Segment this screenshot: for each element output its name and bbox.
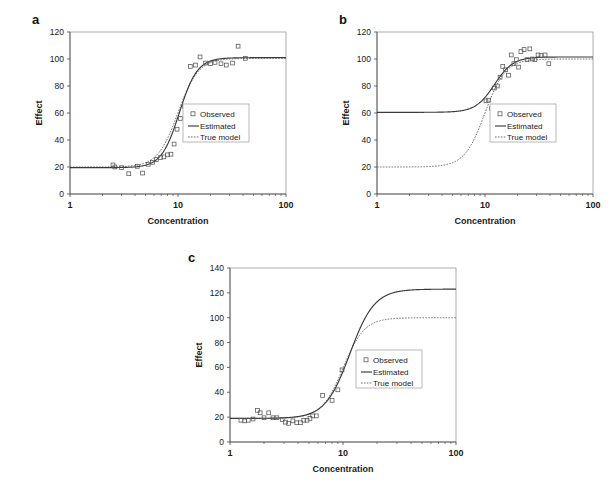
data-point	[236, 44, 240, 48]
data-point	[224, 63, 228, 67]
data-point	[188, 65, 192, 69]
data-point	[321, 393, 325, 397]
panel-letter-c: c	[188, 250, 195, 265]
legend: ObservedEstimatedTrue model	[356, 350, 422, 388]
x-tick-label: 100	[278, 200, 293, 210]
data-point	[251, 417, 255, 421]
y-tick-label: 120	[210, 288, 224, 298]
x-tick-label: 10	[480, 200, 490, 210]
data-point	[336, 388, 340, 392]
chart-a: 020406080100120110100ConcentrationEffect…	[18, 8, 308, 240]
data-point	[517, 65, 521, 69]
true-model-curve	[70, 58, 286, 167]
legend-label-true-model: True model	[373, 379, 413, 388]
legend: ObservedEstimatedTrue model	[490, 104, 556, 142]
figure-root: a 020406080100120110100ConcentrationEffe…	[0, 0, 614, 483]
data-point	[194, 63, 198, 67]
legend-label-estimated: Estimated	[373, 368, 409, 377]
panel-letter-b: b	[339, 12, 347, 27]
panel-letter-a: a	[32, 12, 39, 27]
y-tick-label: 100	[357, 54, 371, 64]
y-tick-label: 0	[219, 437, 224, 447]
data-point	[127, 172, 131, 176]
estimated-curve	[377, 57, 593, 112]
y-axis-title: Effect	[194, 342, 204, 367]
legend-label-observed: Observed	[373, 356, 408, 365]
y-tick-label: 20	[215, 412, 225, 422]
y-tick-label: 140	[210, 263, 224, 273]
data-point	[172, 142, 176, 146]
data-point	[258, 411, 262, 415]
y-tick-label: 40	[55, 135, 65, 145]
legend-label-observed: Observed	[200, 110, 235, 119]
data-point	[175, 127, 179, 131]
x-tick-label: 100	[585, 200, 600, 210]
data-point	[547, 62, 551, 66]
legend-label-estimated: Estimated	[507, 122, 543, 131]
true-model-curve	[377, 59, 593, 167]
y-tick-label: 80	[55, 81, 65, 91]
observed-points	[239, 368, 344, 425]
panel-c: c 020406080100120140110100ConcentrationE…	[168, 248, 478, 480]
data-group	[70, 44, 286, 175]
x-tick-label: 1	[374, 200, 379, 210]
legend-label-observed: Observed	[507, 110, 542, 119]
data-point	[141, 171, 145, 175]
legend-label-true-model: True model	[507, 133, 547, 142]
x-axis-title: Concentration	[312, 464, 373, 474]
data-point	[219, 62, 223, 66]
x-axis-title: Concentration	[454, 216, 515, 226]
y-axis-title: Effect	[34, 100, 44, 125]
observed-points	[484, 47, 551, 110]
data-point	[198, 55, 202, 59]
data-point	[295, 421, 299, 425]
data-point	[509, 53, 513, 57]
y-tick-label: 60	[362, 108, 372, 118]
x-axis-title: Concentration	[147, 216, 208, 226]
y-tick-label: 120	[50, 27, 64, 37]
panel-b: b 020406080100120110100ConcentrationEffe…	[325, 8, 614, 240]
legend-label-estimated: Estimated	[200, 122, 236, 131]
y-tick-label: 60	[55, 108, 65, 118]
data-point	[507, 73, 511, 77]
x-tick-label: 1	[67, 200, 72, 210]
x-tick-label: 1	[227, 448, 232, 458]
chart-b: 020406080100120110100ConcentrationEffect…	[325, 8, 614, 240]
y-tick-label: 80	[362, 81, 372, 91]
y-tick-label: 80	[215, 338, 225, 348]
data-point	[291, 419, 295, 423]
y-tick-label: 0	[366, 189, 371, 199]
y-tick-label: 100	[210, 313, 224, 323]
axes-group: 020406080100120140110100ConcentrationEff…	[194, 263, 464, 474]
data-point	[267, 411, 271, 415]
x-tick-label: 10	[338, 448, 348, 458]
y-tick-label: 100	[50, 54, 64, 64]
legend: ObservedEstimatedTrue model	[183, 104, 249, 142]
x-tick-label: 100	[448, 448, 463, 458]
data-point	[528, 47, 532, 51]
data-point	[330, 398, 334, 402]
panel-a: a 020406080100120110100ConcentrationEffe…	[18, 8, 308, 240]
legend-label-true-model: True model	[200, 133, 240, 142]
data-point	[231, 61, 235, 65]
data-point	[256, 408, 260, 412]
y-tick-label: 20	[55, 162, 65, 172]
data-group	[377, 47, 593, 167]
axes-group: 020406080100120110100ConcentrationEffect	[34, 27, 294, 226]
y-tick-label: 120	[357, 27, 371, 37]
y-tick-label: 20	[362, 162, 372, 172]
y-tick-label: 40	[215, 387, 225, 397]
x-tick-label: 10	[173, 200, 183, 210]
data-point	[543, 53, 547, 57]
y-axis-title: Effect	[341, 100, 351, 125]
chart-c: 020406080100120140110100ConcentrationEff…	[168, 248, 478, 480]
data-point	[209, 62, 213, 66]
y-tick-label: 40	[362, 135, 372, 145]
y-tick-label: 0	[59, 189, 64, 199]
y-tick-label: 60	[215, 362, 225, 372]
data-point	[178, 117, 182, 121]
